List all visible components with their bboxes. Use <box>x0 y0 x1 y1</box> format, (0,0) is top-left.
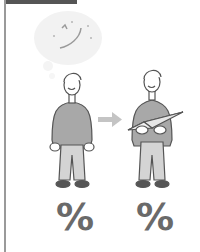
thought-bubble <box>34 11 102 79</box>
left-percent-label: % <box>56 198 93 236</box>
man-standing-icon <box>50 73 94 187</box>
arrow-right-icon <box>98 112 122 127</box>
right-percent-label: % <box>136 198 173 236</box>
man-holding-paper-airplane-icon <box>128 70 183 187</box>
